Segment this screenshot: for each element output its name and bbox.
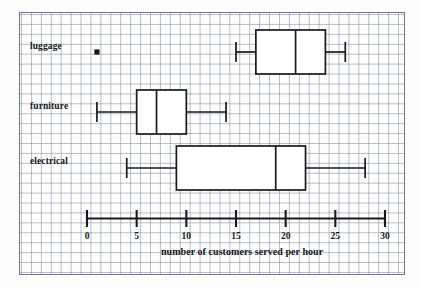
- x-axis-title: number of customers served per hour: [161, 246, 323, 257]
- x-tick-label-5: 5: [134, 231, 139, 241]
- x-tick-label-30: 30: [380, 231, 390, 241]
- category-label-luggage: luggage: [30, 41, 62, 51]
- x-tick-label-20: 20: [281, 231, 291, 241]
- x-tick-label-25: 25: [331, 231, 341, 241]
- chart-figure: luggage furniture electrical 05101520253…: [0, 0, 421, 288]
- x-tick-label-10: 10: [182, 231, 192, 241]
- graph-paper-background: [19, 12, 405, 275]
- category-label-furniture: furniture: [30, 101, 68, 111]
- x-tick-label-0: 0: [85, 231, 90, 241]
- category-label-electrical: electrical: [30, 156, 68, 166]
- x-tick-label-15: 15: [231, 231, 241, 241]
